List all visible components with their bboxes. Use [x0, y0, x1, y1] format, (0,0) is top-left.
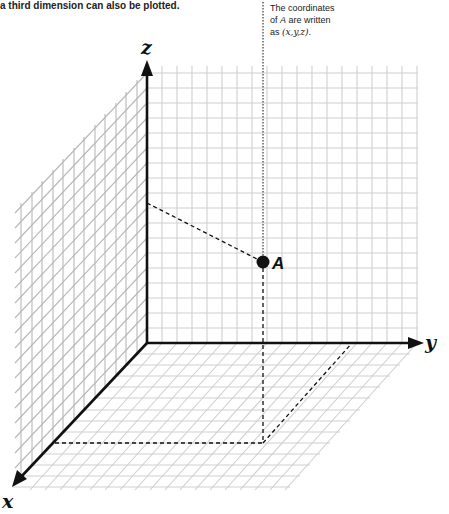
back-wall-grid — [147, 66, 418, 343]
floor-grid — [12, 343, 417, 490]
intro-text: a third dimension can also be plotted. — [0, 0, 179, 12]
point-a-label: A — [272, 255, 284, 272]
y-axis-label: y — [425, 333, 436, 352]
3d-coordinate-diagram — [0, 0, 449, 514]
x-axis-label: x — [2, 492, 13, 511]
coordinates-note: The coordinates of A are written as (x,y… — [270, 2, 360, 38]
note-text: are written — [286, 15, 331, 25]
dashed-line-floor-y — [263, 343, 352, 443]
point-a-marker — [257, 256, 270, 269]
note-coords: (x,y,z) — [282, 27, 308, 37]
z-arrowhead-icon — [141, 60, 153, 76]
y-arrowhead-icon — [408, 337, 424, 349]
note-line-1: The coordinates — [270, 2, 360, 14]
note-text: as — [270, 27, 282, 37]
note-text: . — [308, 27, 311, 37]
note-line-2: of A are written — [270, 14, 360, 26]
note-line-3: as (x,y,z). — [270, 26, 360, 38]
dashed-line-a-to-z — [147, 203, 257, 259]
z-axis-label: z — [141, 38, 152, 57]
note-text: of — [270, 15, 280, 25]
